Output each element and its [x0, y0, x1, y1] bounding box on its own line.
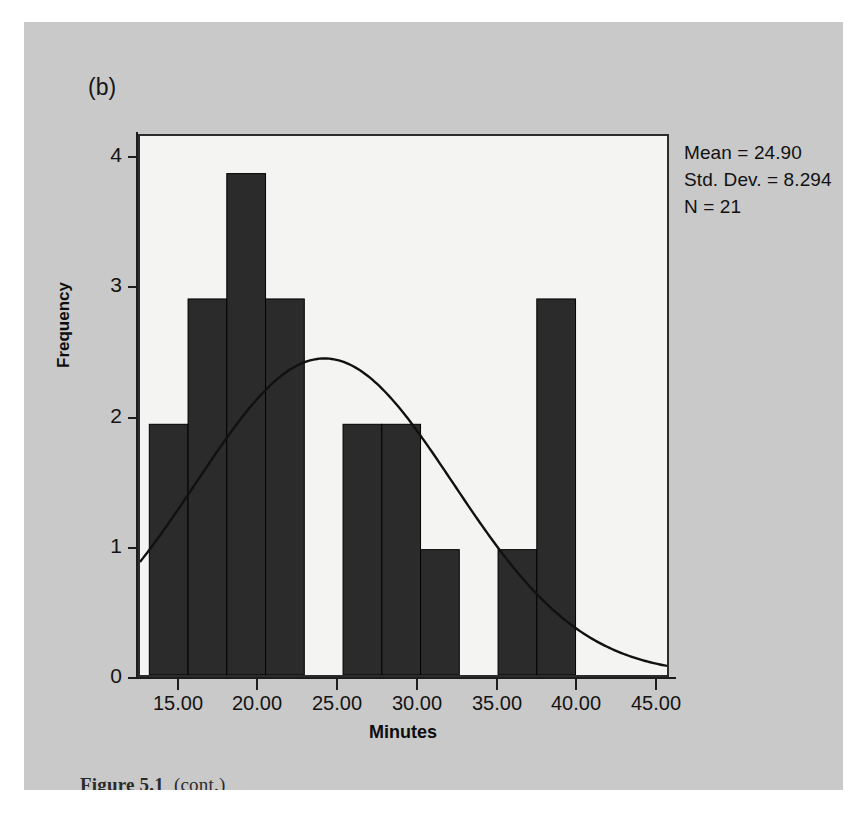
y-axis-title: Frequency — [54, 282, 74, 368]
histogram-bar — [227, 174, 266, 675]
x-tick-40 — [575, 679, 577, 690]
stat-n: N = 21 — [684, 194, 832, 221]
y-tick-1 — [128, 547, 138, 549]
y-tick-2 — [128, 417, 138, 419]
subfigure-label: (b) — [88, 74, 116, 101]
x-tick-35 — [496, 679, 498, 690]
x-tick-15 — [177, 679, 179, 690]
page-margin-bottom — [24, 790, 843, 832]
histogram-bar — [421, 550, 460, 675]
figure-page: (b) Frequency 0 1 2 3 4 — [0, 0, 867, 832]
histogram-bar — [343, 424, 382, 675]
histogram-chart: Frequency 0 1 2 3 4 — [88, 118, 828, 748]
x-axis-line — [136, 677, 676, 679]
x-tick-label-15: 15.00 — [138, 692, 218, 715]
plot-graphics — [140, 136, 667, 675]
stat-stddev: Std. Dev. = 8.294 — [684, 167, 832, 194]
y-tick-label-4: 4 — [88, 143, 122, 167]
x-tick-label-45: 45.00 — [616, 692, 696, 715]
page-margin-left — [0, 0, 24, 832]
x-tick-label-40: 40.00 — [536, 692, 616, 715]
figure-panel: (b) Frequency 0 1 2 3 4 — [24, 22, 843, 790]
x-tick-25 — [336, 679, 338, 690]
x-tick-20 — [256, 679, 258, 690]
histogram-bar — [382, 424, 421, 675]
x-tick-label-20: 20.00 — [217, 692, 297, 715]
stat-mean: Mean = 24.90 — [684, 140, 832, 167]
y-tick-3 — [128, 286, 138, 288]
x-tick-label-30: 30.00 — [377, 692, 457, 715]
histogram-bar — [149, 424, 188, 675]
x-tick-30 — [416, 679, 418, 690]
page-margin-right — [843, 0, 867, 832]
x-tick-45 — [655, 679, 657, 690]
histogram-bar — [498, 550, 537, 675]
x-tick-label-25: 25.00 — [297, 692, 377, 715]
y-tick-label-2: 2 — [88, 404, 122, 428]
x-axis-title: Minutes — [88, 722, 718, 743]
y-tick-label-3: 3 — [88, 273, 122, 297]
y-tick-4 — [128, 156, 138, 158]
histogram-bars — [149, 174, 575, 675]
x-tick-label-35: 35.00 — [457, 692, 537, 715]
y-tick-label-0: 0 — [88, 664, 122, 688]
statistics-annotation: Mean = 24.90 Std. Dev. = 8.294 N = 21 — [684, 140, 832, 221]
plot-area — [138, 134, 669, 677]
page-margin-top — [0, 0, 867, 22]
y-tick-label-1: 1 — [88, 534, 122, 558]
histogram-bar — [266, 299, 305, 675]
histogram-bar — [537, 299, 576, 675]
